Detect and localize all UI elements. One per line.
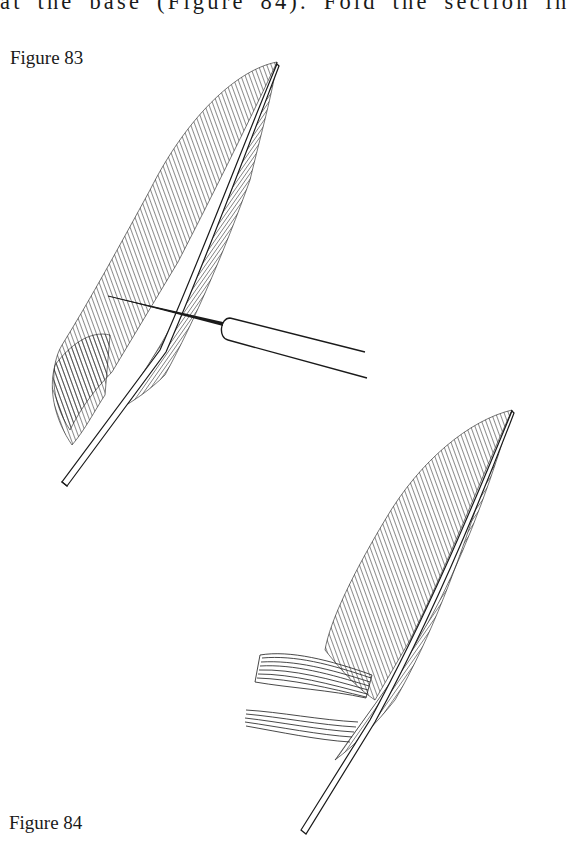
feather-icon [245,410,514,834]
feather-icon [52,62,279,486]
separated-barbs-lower [245,710,358,742]
